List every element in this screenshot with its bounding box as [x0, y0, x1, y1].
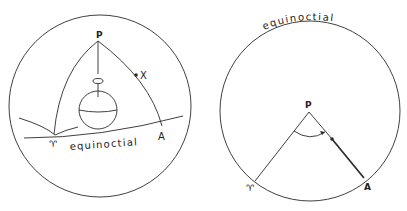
- label-x: X: [140, 70, 147, 81]
- ecliptic-arc: [19, 118, 78, 135]
- right-figure: [220, 21, 400, 201]
- meridian-p-a: [98, 41, 162, 126]
- equinoctial-circle: [220, 21, 400, 201]
- line-p-a-thick: [332, 139, 364, 178]
- diagram-canvas: P X ♈ A equinoctial P ♈ A equinoctial: [0, 0, 407, 211]
- meridian-p-aries: [54, 41, 98, 134]
- label-aries-right: ♈: [246, 183, 254, 193]
- label-equinoctial-right: equinoctial: [261, 11, 336, 32]
- line-p-aries: [255, 112, 309, 181]
- label-a-left: A: [158, 131, 165, 142]
- label-a-right: A: [364, 182, 371, 192]
- angle-arc: [294, 131, 325, 137]
- rotation-arrow-icon: [93, 79, 103, 84]
- star-dot: [330, 137, 334, 141]
- label-equinoctial-left: equinoctial: [69, 136, 138, 152]
- left-figure: [9, 15, 191, 197]
- earth-equator: [79, 110, 117, 112]
- label-p-left: P: [96, 30, 103, 40]
- label-p-right: P: [305, 100, 312, 110]
- label-aries-left: ♈: [49, 139, 57, 149]
- star-x-marker: [134, 73, 138, 77]
